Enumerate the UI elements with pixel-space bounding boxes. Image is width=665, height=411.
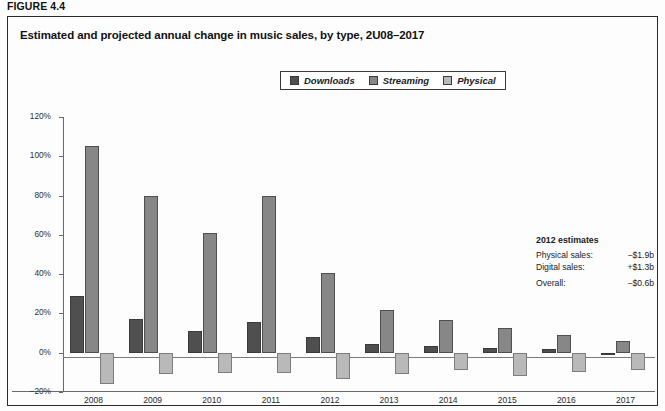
bar-group xyxy=(360,117,419,392)
x-axis-tick-label: 2009 xyxy=(127,395,179,405)
bar-group xyxy=(64,117,123,392)
y-axis-tick-mark xyxy=(59,313,63,314)
bar-physical-2010 xyxy=(218,353,232,374)
bar-physical-2011 xyxy=(277,353,291,374)
bar-physical-2016 xyxy=(572,353,586,373)
bar-downloads-2014 xyxy=(424,346,438,353)
bar-downloads-2012 xyxy=(306,337,320,353)
bar-group xyxy=(182,117,241,392)
bar-streaming-2016 xyxy=(557,335,571,353)
annotation-key-overall: Overall: xyxy=(536,278,566,290)
x-axis-tick-label: 2010 xyxy=(186,395,238,405)
y-axis-tick-mark xyxy=(59,235,63,236)
figure-panel: Estimated and projected annual change in… xyxy=(7,16,658,406)
x-axis-tick-label: 2013 xyxy=(363,395,415,405)
bar-downloads-2017 xyxy=(601,353,615,355)
annotation-row-overall: Overall: −$0.6b xyxy=(536,278,654,290)
y-axis-tick-mark xyxy=(59,392,63,393)
y-axis-tick-label: −20% xyxy=(30,386,51,396)
y-axis-tick-mark xyxy=(59,156,63,157)
x-axis-tick-label: 2012 xyxy=(304,395,356,405)
bar-physical-2014 xyxy=(454,353,468,371)
bar-streaming-2011 xyxy=(262,196,276,353)
bar-streaming-2012 xyxy=(321,273,335,353)
annotation-row-physical: Physical sales: −$1.9b xyxy=(536,250,654,262)
bar-downloads-2015 xyxy=(483,348,497,353)
bar-downloads-2009 xyxy=(129,319,143,352)
annotation-title: 2012 estimates xyxy=(536,235,654,245)
bar-streaming-2017 xyxy=(616,341,630,353)
y-axis-tick-mark xyxy=(59,196,63,197)
y-axis-tick-label: 40% xyxy=(34,268,51,278)
figure-number: FIGURE 4.4 xyxy=(7,0,65,12)
bar-group xyxy=(241,117,300,392)
bar-downloads-2008 xyxy=(70,296,84,353)
y-axis-tick-label: 20% xyxy=(34,307,51,317)
x-axis-tick-label: 2008 xyxy=(68,395,120,405)
annotation-key-physical: Physical sales: xyxy=(536,250,593,262)
bar-streaming-2009 xyxy=(144,196,158,353)
x-axis-tick-label: 2015 xyxy=(481,395,533,405)
y-axis-tick-label: 0% xyxy=(39,347,51,357)
x-axis-tick-label: 2014 xyxy=(422,395,474,405)
bar-downloads-2016 xyxy=(542,349,556,353)
x-axis-tick-label: 2011 xyxy=(245,395,297,405)
y-axis-tick-mark xyxy=(59,353,63,354)
bar-downloads-2013 xyxy=(365,344,379,353)
y-axis-tick-mark xyxy=(59,274,63,275)
bar-downloads-2010 xyxy=(188,331,202,353)
bar-streaming-2008 xyxy=(85,146,99,352)
bar-streaming-2015 xyxy=(498,328,512,353)
annotation-value-digital: +$1.3b xyxy=(627,262,654,274)
bar-streaming-2010 xyxy=(203,233,217,353)
plot-area: 120%100%80%60%40%20%0%−20% 2008200920102… xyxy=(8,17,659,407)
y-axis-tick-label: 120% xyxy=(30,111,51,121)
bar-downloads-2011 xyxy=(247,322,261,352)
y-axis-tick-label: 100% xyxy=(30,150,51,160)
bar-group xyxy=(419,117,478,392)
bar-group xyxy=(478,117,537,392)
y-axis-tick-label: 80% xyxy=(34,190,51,200)
bar-physical-2017 xyxy=(631,353,645,371)
annotation-value-overall: −$0.6b xyxy=(627,278,654,290)
bar-physical-2012 xyxy=(336,353,350,380)
annotation-row-digital: Digital sales: +$1.3b xyxy=(536,262,654,274)
bar-streaming-2014 xyxy=(439,320,453,352)
y-axis-tick-mark xyxy=(59,117,63,118)
estimates-annotation: 2012 estimates Physical sales: −$1.9b Di… xyxy=(536,235,654,290)
x-axis-tick-label: 2016 xyxy=(540,395,592,405)
bar-group xyxy=(300,117,359,392)
bar-physical-2013 xyxy=(395,353,409,375)
bar-physical-2015 xyxy=(513,353,527,377)
bar-physical-2008 xyxy=(100,353,114,384)
bar-streaming-2013 xyxy=(380,310,394,353)
bar-physical-2009 xyxy=(159,353,173,375)
annotation-value-physical: −$1.9b xyxy=(627,250,654,262)
x-axis-tick-label: 2017 xyxy=(599,395,651,405)
y-axis-tick-label: 60% xyxy=(34,229,51,239)
figure-root: FIGURE 4.4 Estimated and projected annua… xyxy=(0,0,665,411)
bar-group xyxy=(123,117,182,392)
annotation-key-digital: Digital sales: xyxy=(536,262,585,274)
